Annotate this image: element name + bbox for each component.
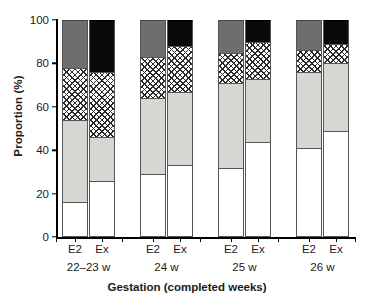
bar-segment-black xyxy=(245,20,271,42)
bar-segment-white xyxy=(89,181,115,237)
stacked-bar xyxy=(62,20,88,237)
stacked-bar xyxy=(140,20,166,237)
bar-segment-hatched xyxy=(323,44,349,64)
bar-segment-white xyxy=(245,142,271,237)
x-axis-group-tick-mark xyxy=(122,237,123,242)
x-axis-group-tick-mark xyxy=(278,237,279,242)
stacked-bar xyxy=(296,20,322,237)
bar-segment-hatched xyxy=(245,42,271,79)
bar-segment-white xyxy=(323,131,349,237)
x-axis-line xyxy=(56,237,356,239)
plot-area xyxy=(57,20,355,237)
chart-figure: Proportion (%) Gestation (completed week… xyxy=(0,0,374,301)
x-axis-tick-mark xyxy=(75,237,76,242)
y-axis-tick-mark xyxy=(52,63,57,64)
bar-segment-light-grey xyxy=(296,72,322,148)
bar-segment-dark-grey xyxy=(62,20,88,68)
stacked-bar xyxy=(218,20,244,237)
bar-label: Ex xyxy=(82,243,122,255)
y-axis-tick-label: 0 xyxy=(0,231,56,243)
bar-segment-white xyxy=(218,168,244,237)
x-axis-tick-mark xyxy=(231,237,232,242)
bar-segment-hatched xyxy=(218,53,244,83)
bar-segment-hatched xyxy=(62,68,88,120)
x-axis-tick-mark xyxy=(309,237,310,242)
bar-segment-dark-grey xyxy=(218,20,244,53)
x-axis-tick-mark xyxy=(102,237,103,242)
bar-segment-black xyxy=(167,20,193,46)
bar-segment-light-grey xyxy=(89,137,115,180)
bar-segment-hatched xyxy=(296,50,322,72)
bar-segment-dark-grey xyxy=(140,20,166,57)
x-axis-tick-mark xyxy=(258,237,259,242)
stacked-bar xyxy=(245,20,271,237)
x-axis-group-tick-mark xyxy=(56,237,57,242)
y-axis-tick-mark xyxy=(52,149,57,150)
bar-label: Ex xyxy=(238,243,278,255)
bar-label: Ex xyxy=(316,243,356,255)
bar-segment-light-grey xyxy=(323,63,349,130)
bar-segment-white xyxy=(140,174,166,237)
bar-segment-hatched xyxy=(89,72,115,137)
y-axis-tick-label: 60 xyxy=(0,101,56,113)
stacked-bar xyxy=(167,20,193,237)
group-label: 26 w xyxy=(263,261,374,273)
x-axis-group-tick-mark xyxy=(355,237,356,242)
bar-segment-light-grey xyxy=(62,120,88,202)
bar-segment-light-grey xyxy=(140,98,166,174)
bar-segment-light-grey xyxy=(245,79,271,142)
y-axis-tick-label: 40 xyxy=(0,144,56,156)
x-axis-tick-mark xyxy=(180,237,181,242)
bar-segment-white xyxy=(167,165,193,237)
bar-segment-black xyxy=(323,20,349,44)
x-axis-group-tick-mark xyxy=(200,237,201,242)
bar-segment-hatched xyxy=(167,46,193,92)
bar-segment-dark-grey xyxy=(296,20,322,50)
stacked-bar xyxy=(89,20,115,237)
bar-segment-white xyxy=(296,148,322,237)
bar-segment-black xyxy=(89,20,115,72)
bar-label: Ex xyxy=(160,243,200,255)
x-axis-tick-mark xyxy=(336,237,337,242)
bar-segment-white xyxy=(62,202,88,237)
stacked-bar xyxy=(323,20,349,237)
bar-segment-light-grey xyxy=(218,83,244,168)
y-axis-tick-label: 20 xyxy=(0,188,56,200)
bar-segment-light-grey xyxy=(167,92,193,166)
y-axis-tick-mark xyxy=(52,19,57,20)
bar-segment-hatched xyxy=(140,57,166,98)
y-axis-tick-label: 80 xyxy=(0,57,56,69)
x-axis-title: Gestation (completed weeks) xyxy=(0,281,374,293)
x-axis-tick-mark xyxy=(153,237,154,242)
y-axis-tick-mark xyxy=(52,193,57,194)
y-axis-tick-mark xyxy=(52,106,57,107)
y-axis-tick-label: 100 xyxy=(0,14,56,26)
